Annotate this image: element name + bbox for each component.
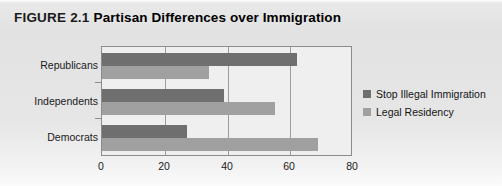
bar-democrats-legal-residency <box>102 138 318 151</box>
figure-number: FIGURE 2.1 <box>14 10 90 25</box>
x-axis-tick-20: 20 <box>158 160 170 172</box>
figure-title-bar: FIGURE 2.1Partisan Differences over Immi… <box>14 8 484 28</box>
y-axis-label-democrats: Democrats <box>3 131 98 143</box>
x-axis-tick-0: 0 <box>98 160 104 172</box>
bar-democrats-stop-illegal-immigration <box>102 125 187 138</box>
legend-item-stop-illegal-immigration: Stop Illegal Immigration <box>363 86 499 101</box>
figure-container: FIGURE 2.1Partisan Differences over Immi… <box>0 0 502 186</box>
bar-independents-legal-residency <box>102 102 275 115</box>
legend-item-legal-residency: Legal Residency <box>363 104 499 119</box>
x-axis-labels: 0 20 40 60 80 <box>101 160 352 176</box>
x-axis-tick-60: 60 <box>283 160 295 172</box>
bar-republicans-stop-illegal-immigration <box>102 53 297 66</box>
legend-swatch-icon <box>363 108 371 116</box>
page-title: Partisan Differences over Immigration <box>94 10 342 25</box>
legend-label-stop-illegal-immigration: Stop Illegal Immigration <box>376 88 486 100</box>
x-axis-tick-40: 40 <box>221 160 233 172</box>
y-axis-label-independents: Independents <box>3 95 98 107</box>
chart-legend: Stop Illegal Immigration Legal Residency <box>363 86 499 122</box>
y-axis-labels: Republicans Independents Democrats <box>0 46 98 156</box>
plot-inner <box>102 47 351 155</box>
plot-area <box>101 46 352 156</box>
bar-independents-stop-illegal-immigration <box>102 89 224 102</box>
bar-republicans-legal-residency <box>102 66 209 79</box>
x-axis-tick-80: 80 <box>346 160 358 172</box>
legend-swatch-icon <box>363 90 371 98</box>
legend-label-legal-residency: Legal Residency <box>376 106 454 118</box>
y-axis-label-republicans: Republicans <box>3 59 98 71</box>
